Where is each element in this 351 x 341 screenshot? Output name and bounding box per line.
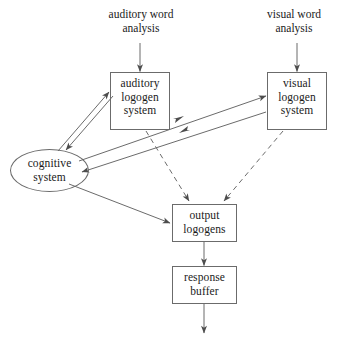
edge-cognitive-to-visual bbox=[79, 96, 266, 161]
edge-visual-to-cognitive-midarrow bbox=[179, 126, 190, 133]
visual-logogen-system-box[interactable] bbox=[267, 72, 327, 130]
response-buffer-box[interactable] bbox=[172, 266, 237, 304]
edge-visual-to-output bbox=[224, 131, 283, 201]
edge-cognitive-to-auditory bbox=[58, 92, 109, 151]
logogen-model-diagram: auditory word analysis visual word analy… bbox=[0, 0, 351, 341]
visual-word-analysis-label: visual word analysis bbox=[252, 8, 336, 35]
auditory-logogen-system-box[interactable] bbox=[110, 72, 170, 130]
auditory-word-analysis-label: auditory word analysis bbox=[96, 8, 186, 35]
edge-auditory-to-cognitive bbox=[66, 96, 113, 150]
edge-auditory-to-output bbox=[146, 131, 189, 201]
edge-cognitive-to-output bbox=[69, 184, 170, 223]
output-logogens-box[interactable] bbox=[172, 204, 237, 242]
edge-cognitive-to-visual-midarrow bbox=[173, 116, 184, 123]
cognitive-system-ellipse[interactable] bbox=[10, 149, 89, 192]
